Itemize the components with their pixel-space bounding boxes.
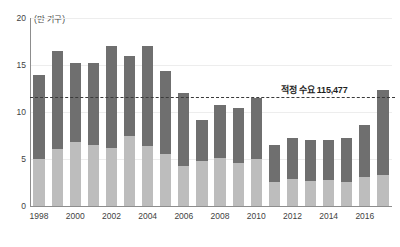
x-tick-label-1998: 1998 bbox=[30, 211, 49, 221]
bar-2004 bbox=[142, 46, 153, 206]
bar-segment-top bbox=[305, 140, 316, 180]
bar-1999 bbox=[52, 51, 63, 206]
bar-segment-bottom bbox=[341, 182, 352, 206]
bar-segment-top bbox=[52, 51, 63, 149]
bar-segment-bottom bbox=[124, 136, 135, 206]
bar-2003 bbox=[124, 56, 135, 206]
x-tick-label-2006: 2006 bbox=[174, 211, 193, 221]
x-tick-label-2016: 2016 bbox=[355, 211, 374, 221]
bar-2011 bbox=[269, 145, 280, 206]
y-tick-label: 5 bbox=[21, 154, 26, 164]
bar-segment-top bbox=[287, 138, 298, 178]
bar-segment-bottom bbox=[233, 163, 244, 206]
bar-segment-top bbox=[88, 63, 99, 145]
bar-segment-bottom bbox=[33, 159, 44, 206]
bar-segment-bottom bbox=[70, 142, 81, 206]
bar-2007 bbox=[196, 120, 207, 206]
bar-segment-bottom bbox=[251, 159, 262, 206]
reference-dashed-line bbox=[30, 97, 395, 98]
bar-2000 bbox=[70, 63, 81, 206]
bar-segment-top bbox=[269, 145, 280, 182]
bar-segment-bottom bbox=[52, 149, 63, 206]
bar-segment-top bbox=[33, 75, 44, 159]
bar-segment-top bbox=[323, 140, 334, 179]
bar-2016 bbox=[359, 125, 370, 206]
y-tick-label: 0 bbox=[21, 201, 26, 211]
y-tick-label: 20 bbox=[17, 13, 26, 23]
bar-segment-top bbox=[377, 90, 388, 175]
bar-segment-top bbox=[359, 125, 370, 177]
bar-segment-top bbox=[251, 98, 262, 159]
bar-2005 bbox=[160, 71, 171, 206]
y-tick-label: 10 bbox=[17, 107, 26, 117]
x-tick-label-2002: 2002 bbox=[102, 211, 121, 221]
reference-line-label: 적정 수요 115,477 bbox=[281, 83, 347, 96]
bar-segment-top bbox=[341, 138, 352, 181]
bar-2017 bbox=[377, 90, 388, 206]
bar-series-group bbox=[30, 18, 392, 206]
bar-2009 bbox=[233, 108, 244, 206]
x-tick-label-2008: 2008 bbox=[211, 211, 230, 221]
bar-2002 bbox=[106, 46, 117, 206]
bar-segment-top bbox=[160, 71, 171, 155]
housing-demand-bar-chart: (만 가구) 05101520 적정 수요 115,477 1998200020… bbox=[0, 0, 400, 247]
bar-segment-top bbox=[70, 63, 81, 142]
bar-2014 bbox=[323, 140, 334, 206]
bar-segment-top bbox=[142, 46, 153, 146]
x-tick-label-2010: 2010 bbox=[247, 211, 266, 221]
bar-2013 bbox=[305, 140, 316, 206]
bar-segment-bottom bbox=[287, 179, 298, 206]
bar-segment-bottom bbox=[106, 148, 117, 206]
x-tick-label-2012: 2012 bbox=[283, 211, 302, 221]
bar-2001 bbox=[88, 63, 99, 206]
x-axis-line bbox=[30, 206, 392, 207]
bar-segment-bottom bbox=[305, 181, 316, 206]
bar-segment-top bbox=[214, 105, 225, 158]
x-tick-label-2004: 2004 bbox=[138, 211, 157, 221]
bar-segment-bottom bbox=[214, 158, 225, 206]
bar-segment-bottom bbox=[359, 177, 370, 206]
bar-segment-top bbox=[178, 93, 189, 165]
bar-segment-bottom bbox=[160, 154, 171, 206]
bar-segment-bottom bbox=[88, 145, 99, 206]
bar-segment-bottom bbox=[196, 161, 207, 206]
bar-2012 bbox=[287, 138, 298, 206]
x-tick-label-2000: 2000 bbox=[66, 211, 85, 221]
x-tick-label-2014: 2014 bbox=[319, 211, 338, 221]
bar-segment-bottom bbox=[323, 180, 334, 206]
bar-segment-top bbox=[233, 108, 244, 163]
bar-2008 bbox=[214, 105, 225, 206]
bar-2010 bbox=[251, 98, 262, 206]
bar-segment-bottom bbox=[178, 166, 189, 206]
bar-1998 bbox=[33, 75, 44, 206]
bar-segment-bottom bbox=[377, 175, 388, 206]
y-tick-label: 15 bbox=[17, 60, 26, 70]
bar-segment-top bbox=[196, 120, 207, 161]
bar-segment-bottom bbox=[269, 182, 280, 206]
bar-2006 bbox=[178, 93, 189, 206]
bar-segment-bottom bbox=[142, 146, 153, 206]
bar-segment-top bbox=[124, 56, 135, 137]
bar-2015 bbox=[341, 138, 352, 206]
